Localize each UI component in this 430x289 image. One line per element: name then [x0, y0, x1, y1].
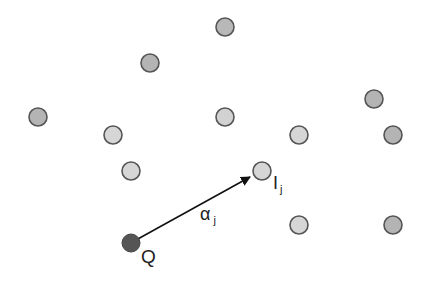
- query-point: [122, 234, 140, 252]
- point: [290, 216, 308, 234]
- point-cloud: [29, 18, 402, 234]
- point: [216, 108, 234, 126]
- point: [141, 54, 159, 72]
- point: [122, 162, 140, 180]
- point: [290, 126, 308, 144]
- point: [216, 18, 234, 36]
- target-label-sub: j: [279, 183, 282, 195]
- point: [29, 108, 47, 126]
- point: [384, 126, 402, 144]
- point: [384, 216, 402, 234]
- point: [104, 126, 122, 144]
- angle-label: αj: [200, 204, 216, 226]
- angle-label-main: α: [200, 204, 210, 224]
- angle-label-sub: j: [212, 214, 215, 226]
- target-point-ij: [253, 162, 271, 180]
- target-label-main: I: [273, 173, 278, 193]
- point: [365, 90, 383, 108]
- arrow-q-to-ij: [136, 177, 250, 240]
- query-label: Q: [141, 246, 156, 267]
- diagram-canvas: Q Ij αj: [0, 0, 430, 289]
- target-label: Ij: [273, 173, 282, 195]
